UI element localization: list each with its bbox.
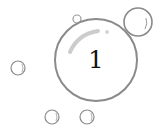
bottom-right-bubble-icon [80, 110, 94, 124]
bubble-graphic: 1 [0, 0, 163, 138]
bottom-left-bubble-icon [45, 110, 59, 124]
bubble-number: 1 [76, 40, 116, 80]
top-right-bubble-icon [124, 8, 152, 36]
left-bubble-icon [11, 61, 25, 75]
